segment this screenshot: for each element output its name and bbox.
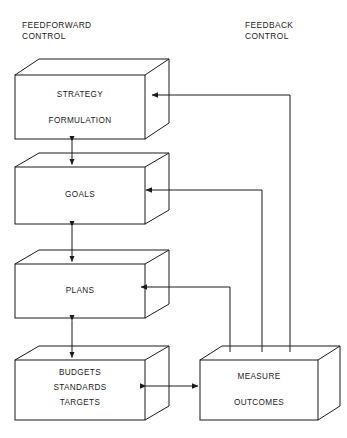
node-budgets-label-line2: STANDARDS (15, 383, 145, 394)
node-measure-label-line2: OUTCOMES (194, 398, 324, 409)
feedforward-control-label: FEEDFORWARD CONTROL (22, 20, 92, 42)
node-budgets-label-line1: BUDGETS (15, 368, 145, 379)
edge-measure-plans-line (141, 287, 230, 352)
node-measure-label-line1: MEASURE (194, 372, 324, 383)
node-plans-label: PLANS (15, 286, 145, 297)
node-measure-shape (200, 346, 340, 420)
node-budgets-label-line3: TARGETS (15, 398, 145, 409)
node-plans-shape (15, 250, 169, 318)
edge-measure-goals-line (146, 190, 262, 352)
edge-measure-strategy-line (152, 95, 290, 352)
node-goals-shape (15, 153, 169, 224)
feedback-control-label: FEEDBACK CONTROL (245, 20, 293, 42)
node-strategy-label-line1: STRATEGY (15, 90, 145, 101)
node-goals-label: GOALS (15, 190, 145, 201)
node-strategy-label-line2: FORMULATION (15, 116, 145, 127)
diagram-canvas: FEEDFORWARD CONTROL FEEDBACK CONTROL STR… (0, 0, 347, 438)
